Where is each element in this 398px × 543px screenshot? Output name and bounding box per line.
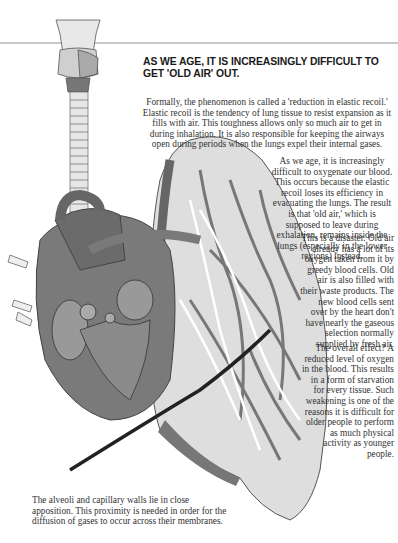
larynx xyxy=(56,20,100,92)
paragraph-disaster: This is a disaster. Old air already has … xyxy=(300,233,394,350)
page-title: AS WE AGE, IT IS INCREASINGLY DIFFICULT … xyxy=(143,56,393,79)
bronchi-left xyxy=(8,255,32,326)
paragraph-overall-effect: The overall effect? A reduced level of o… xyxy=(300,343,394,460)
paragraph-elastic-recoil: Formally, the phenomenon is called a 're… xyxy=(140,97,394,150)
illustration-caption: The alveoli and capillary walls lie in c… xyxy=(32,495,232,527)
